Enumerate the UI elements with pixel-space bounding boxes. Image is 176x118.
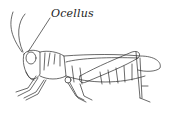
grasshopper-diagram: Ocellus: [0, 0, 176, 118]
antennae: [11, 12, 25, 52]
wing: [64, 55, 160, 72]
head: [23, 50, 40, 80]
leg-joint: [65, 77, 71, 83]
label-leader-line: [28, 18, 50, 52]
ocellus-label: Ocellus: [51, 8, 94, 19]
hind-femur: [79, 51, 150, 102]
pronotum: [40, 51, 66, 79]
